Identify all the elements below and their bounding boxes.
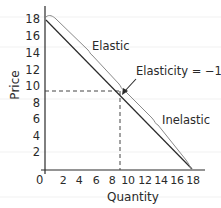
x-tick: 10 xyxy=(121,174,135,187)
x-tick: 14 xyxy=(154,174,168,187)
y-tick: 8 xyxy=(33,96,40,110)
y-tick: 12 xyxy=(25,63,40,77)
y-tick: 14 xyxy=(25,46,40,60)
x-tick: 4 xyxy=(76,174,83,187)
y-tick: 18 xyxy=(25,12,40,26)
y-tick: 2 xyxy=(33,145,40,159)
y-axis-title: Price xyxy=(8,70,22,99)
y-tick: 10 xyxy=(25,79,40,93)
x-tick: 16 xyxy=(170,174,184,187)
x-tick: 2 xyxy=(60,174,67,187)
x-axis-title: Quantity xyxy=(107,190,159,204)
demand-elasticity-chart: 18 16 14 12 10 8 6 4 2 0 2 4 6 8 10 12 1… xyxy=(0,0,221,208)
x-tick: 8 xyxy=(109,174,116,187)
y-tick-labels: 18 16 14 12 10 8 6 4 2 xyxy=(25,12,40,159)
y-tick: 6 xyxy=(33,112,40,126)
unit-elasticity-label: Elasticity = −1 xyxy=(136,64,221,78)
origin-label: 0 xyxy=(36,173,43,187)
y-tick: 4 xyxy=(33,129,40,143)
x-tick: 6 xyxy=(93,174,100,187)
x-tick: 12 xyxy=(138,174,151,187)
x-tick: 18 xyxy=(186,174,200,187)
elastic-label: Elastic xyxy=(92,39,130,53)
y-tick: 16 xyxy=(25,29,40,43)
inelastic-label: Inelastic xyxy=(162,113,210,127)
x-tick-labels: 2 4 6 8 10 12 14 16 18 xyxy=(60,174,200,187)
